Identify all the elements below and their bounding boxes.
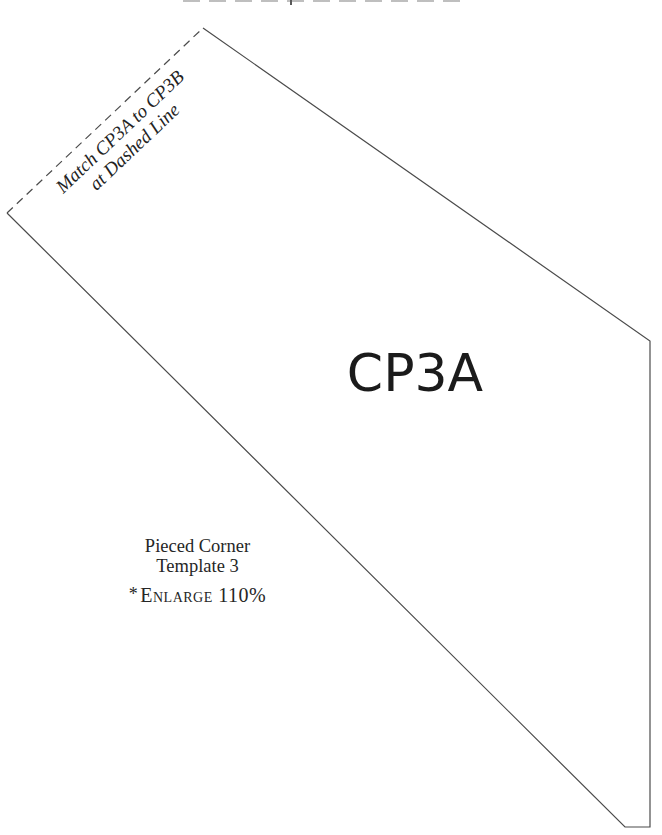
pattern-page: Match CP3A to CP3B at Dashed Line CP3A P…	[0, 0, 662, 835]
template-outline	[0, 0, 662, 835]
piece-label: CP3A	[340, 344, 490, 402]
template-title-line1: Pieced Corner	[105, 537, 290, 557]
template-title-line2: Template 3	[105, 557, 290, 577]
enlarge-asterisk: *	[129, 584, 139, 604]
template-info: Pieced Corner Template 3 *Enlarge 110%	[105, 537, 290, 606]
enlarge-text: Enlarge 110%	[140, 584, 266, 606]
enlarge-note: *Enlarge 110%	[105, 583, 290, 606]
